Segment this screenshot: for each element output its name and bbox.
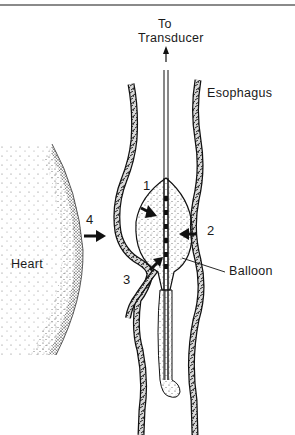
- balloon-leader-line: [182, 258, 225, 272]
- arrow-2-label: 2: [207, 223, 214, 238]
- esophagus-right-wall: [191, 80, 201, 435]
- catheter-sheath: [158, 290, 180, 397]
- label-transducer: Transducer: [138, 31, 204, 45]
- arrow-1-label: 1: [143, 178, 150, 193]
- arrow-4-label: 4: [86, 212, 93, 227]
- heart-shape: [0, 144, 83, 355]
- esophagus-fold: [128, 270, 156, 318]
- arrow-3-label: 3: [123, 272, 130, 287]
- diagram-canvas: [0, 0, 295, 435]
- label-to: To: [158, 17, 172, 31]
- label-esophagus: Esophagus: [207, 86, 272, 100]
- arrow-up-icon: [163, 46, 169, 54]
- label-heart: Heart: [11, 257, 43, 271]
- label-balloon: Balloon: [229, 264, 273, 278]
- arrow-4-icon: [84, 230, 106, 242]
